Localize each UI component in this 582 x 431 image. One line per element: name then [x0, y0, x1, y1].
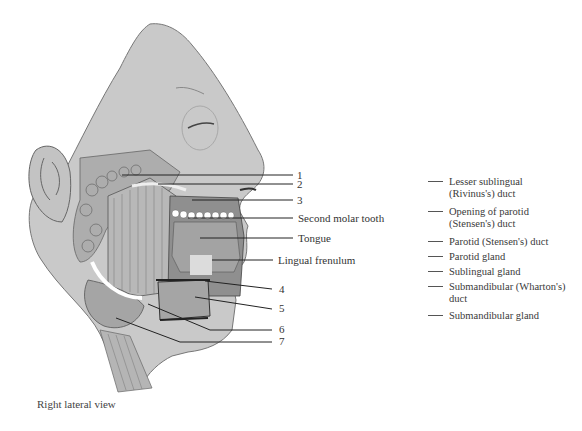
answer-blank[interactable]: [428, 315, 443, 316]
label-number-6: 6: [279, 324, 285, 335]
answer-key-item: Parotid gland: [428, 251, 505, 263]
view-caption: Right lateral view: [37, 398, 116, 410]
answer-blank[interactable]: [428, 286, 443, 287]
answer-key-item: Parotid (Stensen's) duct: [428, 236, 548, 248]
sublingual-gland-shape: [158, 280, 210, 320]
label-number-3: 3: [297, 195, 303, 206]
frenulum-patch: [190, 255, 212, 275]
answer-key-text-line2: (Rivinus's) duct: [449, 188, 515, 199]
answer-key-item: Submandibular gland: [428, 310, 539, 322]
answer-key-text: Opening of parotid: [449, 206, 529, 217]
anatomy-figure: 1 2 3 4 5 6 7 Second molar tooth Tongue …: [0, 0, 582, 431]
masseter-muscle: [108, 178, 176, 296]
answer-blank[interactable]: [428, 256, 443, 257]
label-number-7: 7: [279, 336, 285, 347]
label-second-molar-tooth: Second molar tooth: [298, 212, 384, 224]
label-lingual-frenulum: Lingual frenulum: [278, 254, 355, 266]
answer-key-text: Sublingual gland: [449, 266, 520, 278]
answer-key-text: Submandibular (Wharton's): [449, 281, 566, 292]
answer-key-item: Submandibular (Wharton's)duct: [428, 281, 566, 304]
answer-key-item: Opening of parotid(Stensen's) duct: [428, 206, 529, 229]
answer-key-item: Sublingual gland: [428, 266, 520, 278]
answer-key-text: Submandibular gland: [449, 310, 539, 322]
label-number-4: 4: [279, 284, 285, 295]
answer-key-item: Lesser sublingual(Rivinus's) duct: [428, 176, 523, 199]
label-number-5: 5: [279, 303, 285, 314]
answer-blank[interactable]: [428, 181, 443, 182]
answer-key-text-line2: duct: [449, 293, 467, 304]
label-tongue: Tongue: [298, 232, 331, 244]
answer-key-text: Lesser sublingual: [449, 176, 523, 187]
label-number-2: 2: [297, 179, 303, 190]
answer-key-text: Parotid (Stensen's) duct: [449, 236, 548, 248]
answer-key-text: Parotid gland: [449, 251, 505, 263]
answer-key-text-line2: (Stensen's) duct: [449, 218, 515, 229]
answer-blank[interactable]: [428, 271, 443, 272]
answer-blank[interactable]: [428, 241, 443, 242]
answer-blank[interactable]: [428, 211, 443, 212]
